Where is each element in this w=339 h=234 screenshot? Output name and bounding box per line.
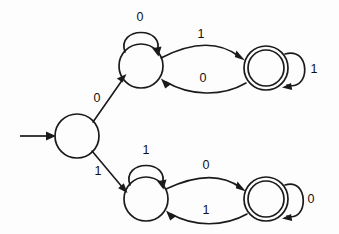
edge-label-q4-q3: 1 [203,203,210,217]
state-node-q3[interactable] [124,177,168,221]
edge-label-q3-q4: 0 [203,158,210,172]
state-node-q1[interactable] [119,44,163,88]
state-circle-q4-inner [248,181,284,217]
self-loop-label-q4: 0 [308,192,315,206]
arrowhead-q1-q2 [235,50,245,60]
state-node-q4-accepting[interactable] [244,177,288,221]
self-loop-label-q3: 1 [143,143,150,157]
state-circle-q0[interactable] [55,114,99,158]
start-arrow [20,132,56,141]
self-loop-arrowhead-q2 [282,83,292,90]
self-loop-label-q2: 1 [311,62,318,76]
state-circle-q4-outer[interactable] [244,177,288,221]
state-node-q2-accepting[interactable] [244,46,288,90]
transition-q2-to-q1: 0 [161,71,246,93]
state-circle-q2-inner [248,50,284,86]
state-circle-q3[interactable] [124,177,168,221]
transition-q4-to-q3: 1 [166,203,247,223]
state-node-q0[interactable] [55,114,99,158]
fsm-diagram: 0 1 0 1 0 1 [0,0,339,234]
transition-q0-to-q3: 1 [92,151,128,193]
transition-q1-to-q2: 1 [161,27,245,60]
edge-label-q0-q3: 1 [95,164,102,178]
arrowhead-q2-q1 [161,79,171,89]
transition-q0-to-q1: 0 [93,74,127,122]
edge-label-q2-q1: 0 [200,71,207,85]
state-circle-q1[interactable] [119,44,163,88]
arrowhead-q3-q4 [236,181,246,191]
edge-line-q3-q4 [166,178,241,189]
edge-label-q1-q2: 1 [198,27,205,41]
arrowhead-q4-q3 [166,211,176,221]
edge-line-q1-q2 [161,45,240,58]
state-diagram-canvas: 0 1 0 1 0 1 [0,0,339,234]
self-loop-label-q1: 0 [137,10,144,24]
state-circle-q2-outer[interactable] [244,46,288,90]
self-loop-arrowhead-q4 [282,214,292,221]
transition-q3-to-q4: 0 [166,158,246,191]
edge-label-q0-q1: 0 [94,91,101,105]
